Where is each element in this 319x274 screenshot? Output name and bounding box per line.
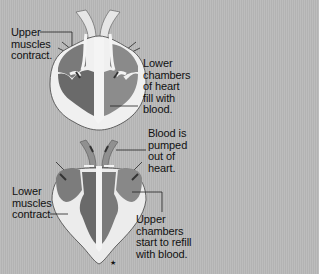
heart-diagram: Upper muscles contract. Lower chambers o… [0, 0, 198, 274]
label-upper-muscles-contract: Upper muscles contract. [11, 27, 52, 62]
heart-top [40, 10, 146, 130]
label-lower-chambers-fill: Lower chambers of heart fill with blood. [143, 58, 191, 116]
star-icon: ★ [110, 259, 116, 267]
label-upper-chambers-refill: Upper chambers start to refill with bloo… [136, 214, 191, 260]
label-lower-muscles-contract: Lower muscles contract. [12, 186, 53, 221]
label-blood-pumped-out: Blood is pumped out of heart. [148, 128, 187, 174]
